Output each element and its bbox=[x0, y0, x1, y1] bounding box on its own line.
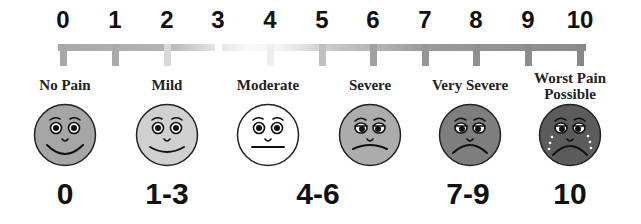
range-number: 4-6 bbox=[273, 176, 363, 212]
neutral-face-icon bbox=[236, 103, 300, 167]
happy-face-icon bbox=[33, 103, 97, 167]
level-label: Mild bbox=[112, 77, 222, 93]
level-label: Severe bbox=[315, 77, 425, 93]
scale-tick-3 bbox=[215, 44, 222, 66]
cry-face-icon bbox=[538, 103, 602, 167]
scale-number-4: 4 bbox=[255, 6, 285, 34]
scale-number-5: 5 bbox=[307, 6, 337, 34]
scale-tick-8 bbox=[473, 44, 480, 66]
level-label: Worst PainPossible bbox=[515, 70, 625, 102]
scale-number-9: 9 bbox=[513, 6, 543, 34]
scale-tick-6 bbox=[370, 44, 377, 66]
range-number: 7-9 bbox=[423, 176, 513, 212]
scale-number-0: 0 bbox=[48, 6, 78, 34]
level-label: No Pain bbox=[10, 77, 120, 93]
scale-number-1: 1 bbox=[100, 6, 130, 34]
scale-number-6: 6 bbox=[358, 6, 388, 34]
scale-tick-2 bbox=[164, 44, 171, 66]
scale-tick-1 bbox=[112, 44, 119, 66]
range-number: 10 bbox=[525, 176, 615, 212]
scale-tick-0 bbox=[60, 44, 67, 66]
range-number: 0 bbox=[20, 176, 110, 212]
scale-tick-9 bbox=[525, 44, 532, 66]
range-number: 1-3 bbox=[122, 176, 212, 212]
smile-face-icon bbox=[135, 103, 199, 167]
sad-face-icon bbox=[438, 103, 502, 167]
scale-tick-10 bbox=[577, 44, 584, 66]
scale-tick-7 bbox=[422, 44, 429, 66]
scale-number-7: 7 bbox=[410, 6, 440, 34]
level-label: Very Severe bbox=[415, 77, 525, 93]
scale-tick-5 bbox=[319, 44, 326, 66]
scale-tick-4 bbox=[267, 44, 274, 66]
level-label: Moderate bbox=[213, 77, 323, 93]
scale-number-3: 3 bbox=[203, 6, 233, 34]
scale-number-8: 8 bbox=[461, 6, 491, 34]
scale-number-10: 10 bbox=[565, 6, 595, 34]
scale-number-2: 2 bbox=[152, 6, 182, 34]
frown-face-icon bbox=[338, 103, 402, 167]
